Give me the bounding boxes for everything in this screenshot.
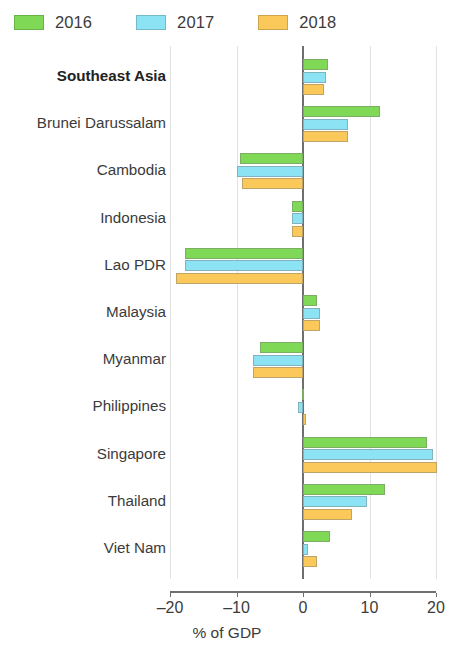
legend-label-2017: 2017 (177, 13, 214, 32)
category-label-singapore: Singapore (0, 445, 166, 462)
category-label-viet-nam: Viet Nam (0, 539, 166, 556)
category-label-southeast-asia: Southeast Asia (0, 67, 166, 84)
bar-indonesia-2016 (292, 201, 303, 212)
bar-myanmar-2017 (253, 355, 303, 366)
legend-entry-2017[interactable]: 2017 (136, 13, 214, 32)
bar-cambodia-2016 (240, 153, 303, 164)
bar-thailand-2018 (303, 509, 352, 520)
category-label-lao-pdr: Lao PDR (0, 256, 166, 273)
bar-philippines-2018 (303, 414, 306, 425)
tick-mark--20 (170, 593, 171, 597)
bar-myanmar-2016 (260, 342, 303, 353)
chart-legend: 201620172018 (0, 0, 454, 44)
tick-mark-20 (436, 593, 437, 597)
tick-label-0: 0 (299, 599, 308, 617)
bar-brunei-darussalam-2017 (303, 119, 348, 130)
bar-singapore-2018 (303, 462, 437, 473)
bar-indonesia-2018 (292, 226, 303, 237)
category-label-indonesia: Indonesia (0, 209, 166, 226)
bar-singapore-2016 (303, 437, 427, 448)
bar-viet-nam-2016 (303, 531, 330, 542)
gridline-10 (370, 46, 371, 579)
legend-label-2018: 2018 (299, 13, 336, 32)
tick-mark-10 (370, 593, 371, 597)
gridline-20 (436, 46, 437, 579)
bar-cambodia-2018 (242, 178, 303, 189)
chart-plot-area: Southeast AsiaBrunei DarussalamCambodiaI… (0, 46, 454, 591)
legend-entry-2018[interactable]: 2018 (258, 13, 336, 32)
tick-label--10: –10 (223, 599, 250, 617)
category-label-philippines: Philippines (0, 397, 166, 414)
legend-swatch-2017 (136, 15, 166, 30)
tick-label-10: 10 (361, 599, 379, 617)
bar-malaysia-2016 (303, 295, 317, 306)
bar-malaysia-2017 (303, 308, 320, 319)
tick-mark--10 (237, 593, 238, 597)
bar-malaysia-2018 (303, 320, 320, 331)
category-label-brunei-darussalam: Brunei Darussalam (0, 114, 166, 131)
legend-entry-2016[interactable]: 2016 (14, 13, 92, 32)
category-label-thailand: Thailand (0, 492, 166, 509)
category-label-malaysia: Malaysia (0, 303, 166, 320)
bar-southeast-asia-2018 (303, 84, 324, 95)
bar-lao-pdr-2018 (176, 273, 303, 284)
bar-myanmar-2018 (253, 367, 303, 378)
bar-brunei-darussalam-2018 (303, 131, 348, 142)
bar-cambodia-2017 (237, 166, 303, 177)
tick-label-20: 20 (427, 599, 445, 617)
legend-swatch-2016 (14, 15, 44, 30)
bar-lao-pdr-2017 (185, 260, 303, 271)
bar-viet-nam-2017 (303, 544, 308, 555)
bar-southeast-asia-2016 (303, 59, 328, 70)
bar-thailand-2016 (303, 484, 385, 495)
gridline--20 (170, 46, 171, 579)
bar-brunei-darussalam-2016 (303, 106, 380, 117)
gridline--10 (237, 46, 238, 579)
tick-label--20: –20 (157, 599, 184, 617)
category-label-myanmar: Myanmar (0, 350, 166, 367)
bar-philippines-2017 (298, 402, 303, 413)
bar-viet-nam-2018 (303, 556, 317, 567)
bar-lao-pdr-2016 (185, 248, 303, 259)
bar-indonesia-2017 (292, 213, 303, 224)
bar-southeast-asia-2017 (303, 72, 326, 83)
bar-philippines-2016 (302, 389, 304, 400)
x-axis-title: % of GDP (0, 624, 454, 642)
category-label-cambodia: Cambodia (0, 161, 166, 178)
bar-thailand-2017 (303, 496, 367, 507)
bar-singapore-2017 (303, 449, 433, 460)
tick-mark-0 (303, 593, 304, 597)
legend-label-2016: 2016 (55, 13, 92, 32)
legend-swatch-2018 (258, 15, 288, 30)
